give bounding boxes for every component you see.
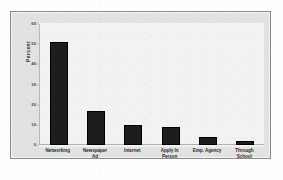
- y-tick-label: 60: [31, 22, 36, 26]
- y-tick-mark: [37, 44, 39, 45]
- y-tick-mark: [37, 64, 39, 65]
- bar-slot: [152, 23, 189, 145]
- y-tick-label: 0: [34, 143, 36, 147]
- y-tick-mark: [37, 124, 39, 125]
- bar-slot: [189, 23, 226, 145]
- y-tick-label: 40: [31, 62, 36, 66]
- bar-slot: [40, 23, 77, 145]
- category-label: Emp. Agency: [188, 148, 225, 154]
- category-label: Networking: [39, 148, 76, 154]
- y-tick-mark: [37, 24, 39, 25]
- category-label: NewspaperAd: [76, 148, 113, 159]
- bar-series: [40, 23, 264, 145]
- y-tick-mark: [37, 84, 39, 85]
- bar-slot: [227, 23, 264, 145]
- y-tick-label: 30: [31, 83, 36, 87]
- y-tick-mark: [37, 145, 39, 146]
- category-label: Internet: [114, 148, 151, 154]
- bar: [87, 111, 105, 145]
- bar: [50, 42, 68, 145]
- bar-slot: [77, 23, 114, 145]
- y-axis-title: Percent: [25, 41, 31, 62]
- bar: [162, 127, 180, 145]
- bar: [124, 125, 142, 145]
- bar: [199, 137, 217, 145]
- bar-slot: [115, 23, 152, 145]
- plot-area: 0102030405060 NetworkingNewspaperAdInter…: [39, 23, 264, 147]
- y-tick-label: 20: [31, 103, 36, 107]
- bar: [236, 141, 254, 145]
- y-tick-mark: [37, 104, 39, 105]
- chart-page: Percent 0102030405060 NetworkingNewspape…: [0, 0, 283, 180]
- y-tick-label: 10: [31, 123, 36, 127]
- y-tick-label: 50: [31, 42, 36, 46]
- category-label: Apply InPerson: [151, 148, 188, 159]
- category-label: ThroughSchool: [226, 148, 263, 159]
- chart-panel: Percent 0102030405060 NetworkingNewspape…: [10, 11, 271, 159]
